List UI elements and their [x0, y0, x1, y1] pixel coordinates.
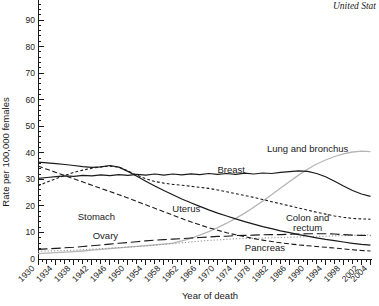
y-tick-label-40: 40	[26, 148, 36, 158]
series-label-stomach: Stomach	[78, 211, 116, 222]
x-tick-label-1942: 1942	[70, 263, 91, 284]
x-tick-label-1974: 1974	[214, 263, 235, 284]
series-line-breast	[38, 171, 371, 196]
x-tick-label-1950: 1950	[106, 263, 127, 284]
series-line-ovary	[38, 234, 371, 250]
x-tick-label-1934: 1934	[34, 263, 55, 284]
x-tick-label-1994: 1994	[304, 263, 325, 284]
y-tick-label-30: 30	[26, 174, 36, 184]
x-tick-label-1930: 1930	[16, 263, 37, 284]
cancer-death-rate-chart: United Stat Rate per 100,000 females Yea…	[0, 0, 379, 306]
series-label-ovary: Ovary	[93, 230, 119, 241]
y-tick-label-10: 10	[26, 227, 36, 237]
y-tick-label-70: 70	[26, 68, 36, 78]
y-tick-label-90: 90	[26, 15, 36, 25]
y-tick-label-60: 60	[26, 95, 36, 105]
x-tick-label-1962: 1962	[160, 263, 181, 284]
x-tick-label-1998: 1998	[322, 263, 343, 284]
x-tick-label-1954: 1954	[124, 263, 145, 284]
x-tick-label-1978: 1978	[232, 263, 253, 284]
x-tick-label-1982: 1982	[250, 263, 271, 284]
x-tick-label-1958: 1958	[142, 263, 163, 284]
series-label-lung-and-bronchus: Lung and bronchus	[267, 143, 349, 154]
series-lines	[38, 151, 371, 254]
series-label-pancreas: Pancreas	[245, 242, 285, 253]
y-tick-label-50: 50	[26, 121, 36, 131]
y-tick-label-80: 80	[26, 42, 36, 52]
series-label-breast: Breast	[217, 164, 245, 175]
x-tick-label-1990: 1990	[286, 263, 307, 284]
x-tick-label-1938: 1938	[52, 263, 73, 284]
series-label-colon-and-rectum: Colon andrectum	[286, 212, 329, 234]
series-label-uterus: Uterus	[172, 203, 200, 214]
y-tick-label-20: 20	[26, 201, 36, 211]
y-axis-title: Rate per 100,000 females	[0, 97, 11, 207]
y-tick-label-0: 0	[30, 254, 35, 264]
chart-canvas: United Stat Rate per 100,000 females Yea…	[0, 0, 379, 306]
x-tick-label-1966: 1966	[178, 263, 199, 284]
x-axis-title: Year of death	[182, 290, 238, 301]
x-tick-label-1986: 1986	[268, 263, 289, 284]
x-tick-label-1970: 1970	[196, 263, 217, 284]
chart-title: United Stat	[333, 1, 376, 11]
x-tick-label-1946: 1946	[88, 263, 109, 284]
